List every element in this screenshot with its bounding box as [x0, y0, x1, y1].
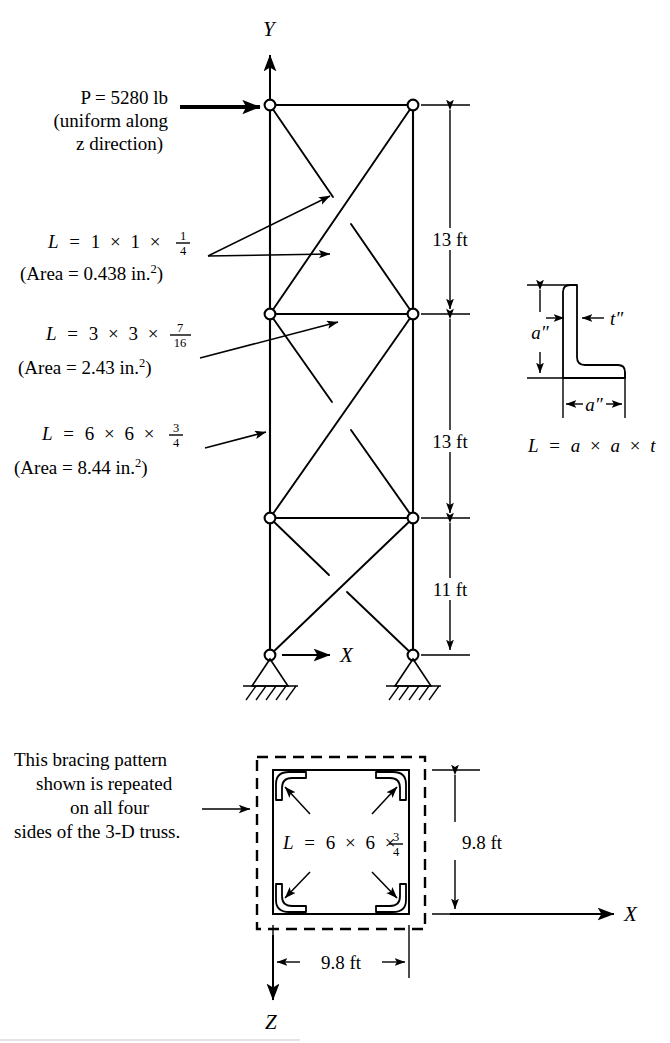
plan-member-times1: ×	[345, 832, 356, 853]
callout-main-legs: L = 6 × 6 × 3 4 (Area = 8.44 in.2)	[14, 421, 266, 479]
joint-lower-left	[265, 513, 276, 524]
brace-p3-down-b	[347, 592, 413, 655]
callout3-times1: ×	[104, 423, 115, 444]
plan-member-frac-numerator: 3	[393, 830, 399, 844]
load-label-line2: (uniform along	[53, 110, 168, 132]
angle-formula-prefix: L	[527, 435, 539, 456]
corner-angle-bottom-right	[376, 884, 406, 912]
corner-leader-top-left	[285, 787, 310, 814]
callout1-dim1: 1	[91, 231, 101, 252]
truss-joints	[265, 100, 419, 661]
angle-formula-times1: ×	[590, 435, 601, 456]
callout1-area-text: (Area = 0.438 in.	[20, 263, 151, 285]
callout2-equals: =	[67, 323, 78, 344]
dimension-11ft-bottom: 11 ft	[433, 523, 468, 650]
corner-angle-bottom-left	[276, 884, 306, 912]
plan-note-line2: shown is repeated	[36, 773, 173, 794]
callout1-leader-b	[208, 254, 330, 256]
corner-angle-top-right	[376, 772, 406, 800]
x-axis-label-plan: X	[623, 902, 638, 926]
plan-member-text: L = 6 × 6 ×	[282, 832, 395, 853]
plan-note-line3: on all four	[70, 797, 150, 818]
brace-p1-down-b	[351, 224, 413, 314]
plan-corner-leaders	[285, 787, 397, 898]
joint-lower-right	[408, 513, 419, 524]
plan-dimension-depth: 9.8 ft	[432, 770, 503, 914]
callout2-prefix: L	[45, 323, 57, 344]
plan-member-frac-denominator: 4	[393, 845, 400, 859]
angle-formula-a2: a	[611, 435, 621, 456]
dimension-13ft-top-label: 13 ft	[432, 229, 468, 250]
callout3-area-close: )	[141, 457, 147, 479]
callout3-frac-denominator: 4	[173, 436, 180, 450]
callout3-dim1: 6	[85, 423, 95, 444]
joint-mid-left	[265, 309, 276, 320]
callout3-area: (Area = 8.44 in.2)	[14, 456, 148, 479]
z-axis-label: Z	[265, 1010, 277, 1034]
dimension-13ft-top: 13 ft	[432, 110, 468, 309]
callout1-equals: =	[69, 231, 80, 252]
load-label-line3: z direction)	[76, 133, 163, 155]
callout1-prefix: L	[47, 231, 59, 252]
callout2-times2: ×	[148, 323, 159, 344]
callout3-times2: ×	[144, 423, 155, 444]
callout3-text: L = 6 × 6 ×	[41, 423, 154, 444]
angle-formula-t: t	[650, 435, 656, 456]
corner-angle-top-left	[276, 772, 306, 800]
callout2-dim2: 3	[129, 323, 139, 344]
truss-horizontal-struts	[270, 105, 413, 518]
callout-diagonal-braces: L = 1 × 1 × 1 4 (Area = 0.438 in.2)	[20, 196, 330, 285]
angle-section-detail: a″ t″ a″ L = a × a × t	[527, 285, 656, 456]
callout2-frac-denominator: 16	[174, 336, 187, 350]
callout3-dim2: 6	[125, 423, 135, 444]
angle-thickness-label: t″	[610, 308, 624, 329]
callout1-frac-numerator: 1	[180, 229, 186, 243]
figure-page: Y P = 5280 lb (uniform along z direction…	[0, 0, 670, 1043]
brace-p2-down-a	[270, 314, 332, 402]
brace-p3-down-a	[270, 518, 329, 575]
dimension-chain-elevation: 13 ft 13 ft 11 ft	[421, 105, 470, 655]
callout-horizontal-struts: L = 3 × 3 × 7 16 (Area = 2.43 in.2)	[18, 321, 338, 379]
angle-leg-vertical-label: a″	[531, 322, 550, 343]
callout1-times1: ×	[110, 231, 121, 252]
callout1-dim2: 1	[131, 231, 141, 252]
plan-note-line1: This bracing pattern	[14, 749, 168, 770]
angle-formula-a1: a	[571, 435, 581, 456]
callout2-times1: ×	[108, 323, 119, 344]
callout2-area-close: )	[145, 357, 151, 379]
callout2-text: L = 3 × 3 ×	[45, 323, 158, 344]
callout3-leader	[205, 432, 266, 448]
bracing-panel-2	[270, 314, 413, 518]
corner-leader-top-right	[372, 787, 397, 814]
joint-mid-right	[408, 309, 419, 320]
y-axis-label: Y	[263, 17, 277, 41]
load-label: P = 5280 lb (uniform along z direction)	[53, 87, 168, 155]
plan-member-equals: =	[304, 832, 315, 853]
dimension-11ft-bottom-label: 11 ft	[433, 579, 468, 600]
callout1-text: L = 1 × 1 ×	[47, 231, 160, 252]
plan-view-note: This bracing pattern shown is repeated o…	[14, 749, 180, 842]
plan-member-dim1: 6	[326, 832, 336, 853]
callout2-area: (Area = 2.43 in.2)	[18, 356, 152, 379]
bracing-panel-3	[270, 518, 413, 655]
plan-width-label: 9.8 ft	[321, 952, 362, 973]
support-left	[243, 659, 298, 700]
callout2-dim1: 3	[89, 323, 99, 344]
brace-p2-down-b	[351, 430, 413, 518]
plan-member-label: L = 6 × 6 × 3 4	[282, 830, 403, 859]
callout2-area-text: (Area = 2.43 in.	[18, 357, 139, 379]
callout1-area-close: )	[157, 263, 163, 285]
brace-p1-down-a	[270, 105, 333, 197]
support-right	[386, 659, 441, 700]
corner-leader-bottom-left	[285, 872, 310, 898]
angle-formula: L = a × a × t	[527, 435, 656, 456]
callout1-area: (Area = 0.438 in.2)	[20, 262, 163, 285]
angle-leg-horizontal-label: a″	[585, 394, 604, 415]
dimension-13ft-middle-label: 13 ft	[432, 431, 468, 452]
callout3-frac-numerator: 3	[173, 421, 179, 435]
callout1-frac-denominator: 4	[180, 244, 187, 258]
plan-note-line4: sides of the 3-D truss.	[14, 821, 180, 842]
plan-depth-label: 9.8 ft	[462, 832, 503, 853]
callout1-times2: ×	[150, 231, 161, 252]
engineering-figure: Y P = 5280 lb (uniform along z direction…	[0, 0, 670, 1043]
